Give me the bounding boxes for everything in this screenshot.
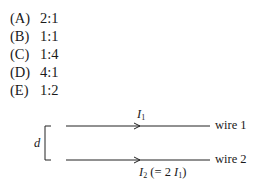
separation-label: d: [34, 136, 40, 151]
current-note: ): [182, 165, 186, 179]
wire-2-label: wire 2: [215, 152, 247, 167]
current-note: (= 2: [147, 165, 174, 179]
wire-2-current-label: I2 (= 2 I1): [139, 165, 186, 180]
wire-1-current-label: I1: [137, 107, 145, 122]
current-subscript: 1: [141, 113, 145, 122]
wires-figure: d I1 wire 1 wire 2 I2 (= 2 I1): [0, 0, 256, 190]
separation-bracket: [45, 126, 51, 160]
wire-1-label: wire 1: [215, 118, 247, 133]
